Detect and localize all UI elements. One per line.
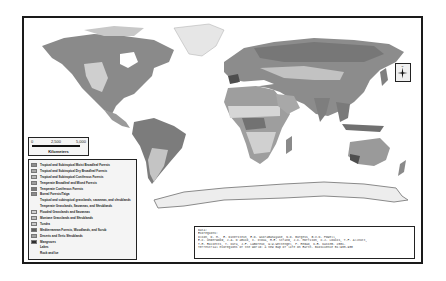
legend-label: Tropical and Subtropical Dry Broadleaf F…: [40, 169, 107, 173]
legend-swatch: [31, 210, 37, 214]
legend-swatch: [31, 175, 37, 179]
legend-item: Rock and Ice: [31, 250, 134, 256]
legend-label: Temperate Broadleaf and Mixed Forests: [40, 181, 97, 185]
legend-label: Flooded Grasslands and Savannas: [40, 210, 90, 214]
congo-rainforest: [242, 118, 266, 130]
legend: Tropical and Subtropical Moist Broadleaf…: [28, 159, 137, 260]
map-frame: N 0 2,500 5,000 Kilometers Tropical and …: [22, 16, 423, 264]
legend-swatch: [31, 228, 37, 232]
legend-label: Montane Grasslands and Shrublands: [40, 216, 93, 220]
legend-swatch: [31, 169, 37, 173]
compass-rose-icon: N: [396, 64, 409, 80]
citation-line: Terrestrial ecoregions of the world: a n…: [198, 246, 411, 249]
scale-tick-2: 5,000: [76, 139, 86, 144]
scale-bar: 0 2,500 5,000 Kilometers: [28, 137, 89, 156]
north-america: [42, 34, 174, 114]
legend-swatch: [31, 251, 37, 255]
legend-swatch: [31, 163, 37, 167]
scale-unit-label: Kilometers: [29, 149, 88, 154]
legend-swatch: [31, 198, 37, 202]
legend-swatch: [31, 234, 37, 238]
legend-label: Lakes: [40, 245, 49, 249]
legend-label: Temperate Grasslands, Savannas, and Shru…: [40, 204, 112, 208]
legend-label: Tropical and Subtropical Coniferous Fore…: [40, 175, 103, 179]
legend-swatch: [31, 216, 37, 220]
scale-bar-line: [32, 145, 80, 147]
legend-swatch: [31, 245, 37, 249]
legend-swatch: [31, 222, 37, 226]
legend-swatch: [31, 240, 37, 244]
svg-text:N: N: [402, 65, 404, 68]
scale-tick-0: 0: [31, 139, 33, 144]
legend-label: Tundra: [40, 222, 50, 226]
greenland: [174, 24, 224, 56]
legend-label: Boreal Forests/Taiga: [40, 192, 69, 196]
sahel-savanna: [228, 106, 280, 118]
indonesia: [342, 124, 384, 132]
legend-swatch: [31, 204, 37, 208]
legend-label: Tropical and Subtropical Moist Broadleaf…: [40, 163, 110, 167]
central-america: [104, 110, 130, 128]
legend-label: Mangroves: [40, 240, 56, 244]
data-citation: Data: Ecoregions: Olson, D. M., E. Diner…: [194, 226, 415, 259]
antarctica: [154, 182, 408, 208]
legend-label: Temperate Coniferous Forests: [40, 187, 83, 191]
madagascar: [286, 136, 292, 154]
legend-label: Rock and Ice: [40, 251, 59, 255]
southeast-asia: [336, 102, 350, 122]
legend-label: Tropical and subtropical grasslands, sav…: [40, 198, 131, 202]
legend-label: Deserts and Xeric Shrublands: [40, 234, 83, 238]
north-arrow: N: [395, 63, 411, 82]
legend-label: Mediterranean Forests, Woodlands, and Sc…: [40, 228, 106, 232]
japan: [380, 68, 388, 86]
legend-swatch: [31, 187, 37, 191]
legend-swatch: [31, 181, 37, 185]
new-zealand: [398, 160, 406, 176]
scale-tick-1: 2,500: [51, 139, 61, 144]
legend-swatch: [31, 192, 37, 196]
